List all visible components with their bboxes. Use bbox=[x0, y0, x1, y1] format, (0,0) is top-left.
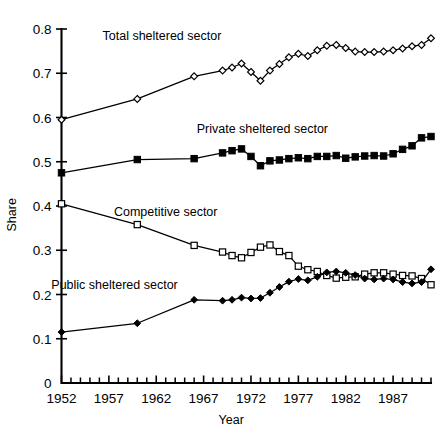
data-point-marker bbox=[58, 170, 64, 176]
data-point-marker bbox=[276, 284, 283, 291]
data-point-marker bbox=[352, 154, 358, 160]
data-point-marker bbox=[229, 64, 236, 71]
data-point-marker bbox=[191, 296, 198, 303]
data-point-marker bbox=[257, 244, 263, 250]
data-point-marker bbox=[333, 42, 340, 49]
data-point-marker bbox=[305, 267, 311, 273]
data-point-marker bbox=[324, 153, 330, 159]
data-point-marker bbox=[267, 289, 274, 296]
data-point-marker bbox=[371, 276, 378, 283]
data-point-marker bbox=[323, 42, 330, 49]
data-point-marker bbox=[238, 294, 245, 301]
x-axis-title: Year bbox=[219, 413, 244, 427]
series-label-public-sheltered-sector: Public sheltered sector bbox=[51, 278, 177, 292]
data-point-marker bbox=[390, 47, 397, 54]
data-point-marker bbox=[295, 276, 302, 283]
y-tick-label: 0.4 bbox=[33, 199, 52, 214]
data-point-marker bbox=[361, 153, 367, 159]
y-axis-title: Share bbox=[5, 198, 19, 231]
data-point-marker bbox=[286, 252, 292, 258]
data-point-marker bbox=[304, 277, 311, 284]
data-point-marker bbox=[238, 146, 244, 152]
data-point-marker bbox=[191, 242, 197, 248]
data-point-marker bbox=[134, 221, 140, 227]
data-point-marker bbox=[314, 47, 321, 54]
data-point-marker bbox=[229, 296, 236, 303]
data-point-marker bbox=[399, 272, 405, 278]
data-point-marker bbox=[428, 282, 434, 288]
data-point-marker bbox=[134, 156, 140, 162]
data-point-marker bbox=[248, 295, 255, 302]
series-label-private-sheltered-sector: Private sheltered sector bbox=[197, 122, 328, 136]
series-label-competitive-sector: Competitive sector bbox=[114, 205, 218, 219]
y-tick-label: 0.5 bbox=[33, 155, 52, 170]
data-point-marker bbox=[342, 45, 349, 52]
y-tick-label: 0 bbox=[44, 376, 52, 391]
x-tick-label: 1957 bbox=[94, 391, 124, 406]
data-point-marker bbox=[305, 155, 311, 161]
data-point-marker bbox=[276, 157, 282, 163]
data-point-marker bbox=[134, 96, 141, 103]
data-point-marker bbox=[333, 275, 339, 281]
data-point-marker bbox=[352, 48, 359, 55]
data-point-marker bbox=[390, 151, 396, 157]
data-point-marker bbox=[257, 163, 263, 169]
data-point-marker bbox=[399, 279, 406, 286]
x-tick-label: 1982 bbox=[331, 391, 361, 406]
data-point-marker bbox=[380, 153, 386, 159]
data-point-marker bbox=[285, 278, 292, 285]
series-total-sheltered-sector bbox=[58, 35, 434, 123]
axes bbox=[56, 29, 431, 383]
data-point-marker bbox=[361, 49, 368, 56]
y-tick-label: 0.3 bbox=[33, 243, 52, 258]
data-point-marker bbox=[219, 67, 226, 74]
x-tick-label: 1962 bbox=[141, 391, 171, 406]
data-point-marker bbox=[58, 329, 65, 336]
data-point-marker bbox=[371, 152, 377, 158]
series-public-sheltered-sector bbox=[58, 266, 434, 336]
y-tick-label: 0.2 bbox=[33, 288, 52, 303]
data-point-marker bbox=[134, 320, 141, 327]
data-point-marker bbox=[229, 252, 235, 258]
data-point-marker bbox=[191, 73, 198, 80]
y-tick-label: 0.7 bbox=[33, 66, 52, 81]
x-tick-label: 1977 bbox=[283, 391, 313, 406]
data-point-marker bbox=[304, 53, 311, 60]
data-point-marker bbox=[276, 248, 282, 254]
data-point-marker bbox=[343, 155, 349, 161]
y-tick-label: 0.8 bbox=[33, 22, 52, 37]
chart-container: 00.10.20.30.40.50.60.70.8195219571962196… bbox=[0, 0, 445, 444]
data-point-marker bbox=[333, 268, 340, 275]
data-point-marker bbox=[219, 150, 225, 156]
data-point-marker bbox=[409, 143, 415, 149]
data-point-marker bbox=[371, 49, 378, 56]
data-point-marker bbox=[399, 45, 406, 52]
data-point-marker bbox=[229, 147, 235, 153]
share-by-sector-line-chart: 00.10.20.30.40.50.60.70.8195219571962196… bbox=[0, 0, 445, 444]
y-tick-label: 0.6 bbox=[33, 111, 52, 126]
series-private-sheltered-sector bbox=[58, 133, 434, 176]
data-point-marker bbox=[428, 133, 434, 139]
data-point-marker bbox=[371, 270, 377, 276]
data-point-marker bbox=[314, 153, 320, 159]
x-tick-label: 1972 bbox=[236, 391, 266, 406]
data-point-marker bbox=[58, 201, 64, 207]
data-point-marker bbox=[219, 249, 225, 255]
x-tick-label: 1967 bbox=[189, 391, 219, 406]
data-point-marker bbox=[248, 153, 254, 159]
data-point-marker bbox=[418, 135, 424, 141]
data-point-marker bbox=[238, 255, 244, 261]
data-point-marker bbox=[248, 249, 254, 255]
data-point-marker bbox=[257, 295, 264, 302]
data-point-marker bbox=[399, 146, 405, 152]
data-point-marker bbox=[267, 158, 273, 164]
x-tick-label: 1987 bbox=[378, 391, 408, 406]
data-point-marker bbox=[295, 50, 302, 57]
data-point-marker bbox=[191, 155, 197, 161]
data-point-marker bbox=[409, 280, 416, 287]
data-point-marker bbox=[219, 297, 226, 304]
tick-labels: 00.10.20.30.40.50.60.70.8195219571962196… bbox=[33, 22, 408, 406]
data-point-marker bbox=[286, 155, 292, 161]
data-point-marker bbox=[295, 155, 301, 161]
data-point-marker bbox=[295, 263, 301, 269]
